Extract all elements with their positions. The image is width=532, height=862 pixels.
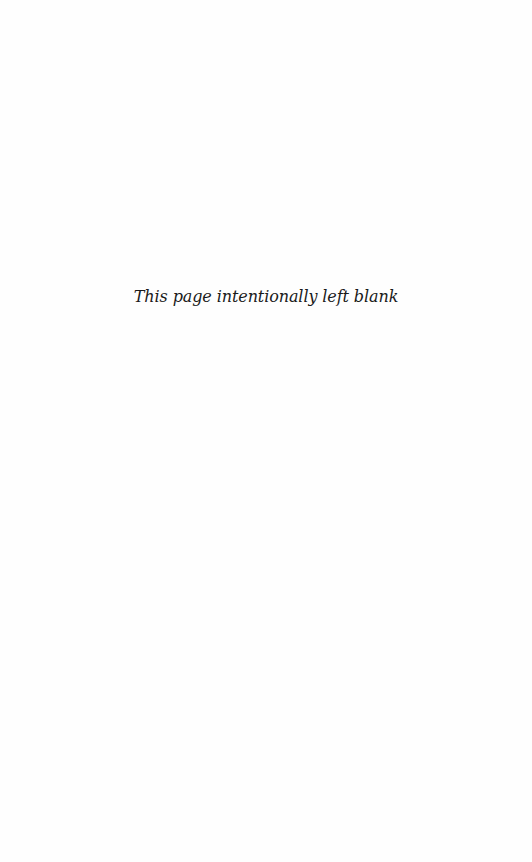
blank-page-notice: This page intentionally left blank: [0, 286, 532, 308]
blank-page: This page intentionally left blank: [0, 0, 532, 862]
